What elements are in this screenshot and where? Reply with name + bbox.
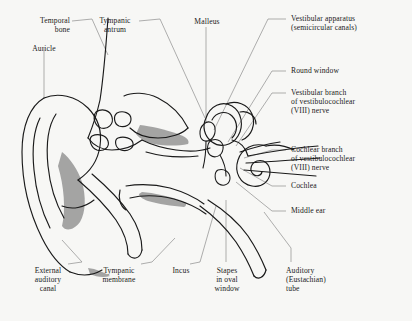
external-auditory-canal: [78, 174, 142, 258]
label-cochlear-branch: Cochlear branch of vestibulocochlear (VI…: [291, 145, 409, 173]
label-incus: Incus: [160, 266, 202, 275]
label-middle-ear: Middle ear: [291, 206, 401, 215]
label-vestibular-apparatus: Vestibular apparatus (semicircular canal…: [291, 14, 409, 32]
label-round-window: Round window: [291, 66, 401, 75]
label-vestibular-branch: Vestibular branch of vestibulocochlear (…: [291, 88, 409, 116]
label-auditory-tube: Auditory (Eustachian) tube: [286, 266, 362, 294]
label-malleus: Malleus: [184, 17, 230, 26]
shaded-regions: [58, 125, 189, 277]
label-external-auditory-canal: External auditory canal: [18, 266, 78, 294]
label-stapes: Stapes in oval window: [204, 266, 250, 294]
ear-outline: [22, 95, 102, 275]
label-tympanic-antrum: Tympanic antrum: [90, 16, 140, 34]
ear-anatomy-diagram: Temporal bone Auricle Tympanic antrum Ma…: [0, 0, 412, 321]
label-cochlea: Cochlea: [291, 181, 401, 190]
label-temporal-bone: Temporal bone: [8, 16, 70, 34]
cochlea-spiral: [237, 145, 294, 187]
label-tympanic-membrane: Tympanic membrane: [90, 266, 148, 284]
label-auricle: Auricle: [10, 44, 78, 53]
